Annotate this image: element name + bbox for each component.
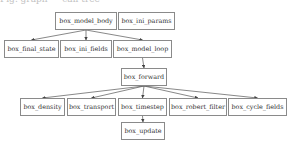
node-box-model-loop[interactable]: box_model_loop xyxy=(113,40,172,58)
node-box-density[interactable]: box_density xyxy=(20,98,65,116)
node-box-ini-params[interactable]: box_ini_params xyxy=(118,12,175,30)
edge-arrow xyxy=(32,30,87,40)
node-box-ini-fields[interactable]: box_ini_fields xyxy=(60,40,112,58)
edge-arrow xyxy=(43,86,145,98)
node-box-model-body[interactable]: box_model_body xyxy=(55,12,117,30)
node-box-robert-filter[interactable]: box_robert_filter xyxy=(169,98,227,116)
edge-arrow xyxy=(143,86,145,98)
node-box-timestep[interactable]: box_timestep xyxy=(118,98,167,116)
edge-arrow xyxy=(144,86,198,98)
node-box-forward[interactable]: box_forward xyxy=(121,68,167,86)
node-box-final-state[interactable]: box_final_state xyxy=(4,40,59,58)
node-box-update[interactable]: box_update xyxy=(121,122,165,140)
node-box-cycle-fields[interactable]: box_cycle_fields xyxy=(228,98,287,116)
edge-arrow xyxy=(92,86,145,98)
edge-arrow xyxy=(144,86,258,98)
node-box-transport[interactable]: box_transport xyxy=(67,98,116,116)
edge-arrow xyxy=(143,58,145,68)
edge-arrow xyxy=(86,30,143,40)
